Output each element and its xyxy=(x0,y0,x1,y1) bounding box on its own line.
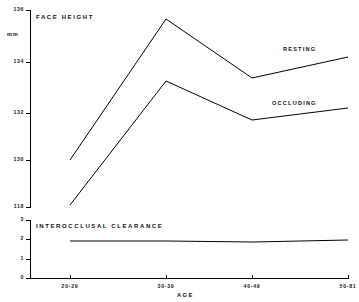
x-tick-3 xyxy=(348,275,349,279)
x-tick-label-50-81: 50-81 xyxy=(328,283,359,289)
x-tick-0 xyxy=(70,275,71,279)
chart-figure: 136 134 132 130 118 mm FACE HEIGHT RESTI… xyxy=(0,0,359,302)
x-axis-title: AGE xyxy=(177,292,194,298)
x-tick-label-30-39: 30-39 xyxy=(146,283,186,289)
series-line-interocclusal-clearance xyxy=(70,240,348,242)
x-tick-2 xyxy=(252,275,253,279)
lower-plot-lines xyxy=(0,0,359,302)
x-tick-label-20-29: 20-29 xyxy=(50,283,90,289)
x-tick-label-40-49: 40-49 xyxy=(232,283,272,289)
x-tick-1 xyxy=(166,275,167,279)
